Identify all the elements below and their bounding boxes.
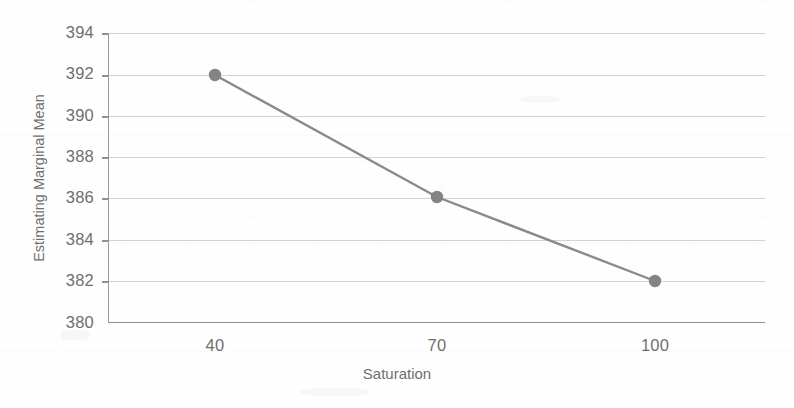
data-point-100[interactable]: [645, 271, 665, 291]
data-point-40[interactable]: [205, 65, 225, 85]
xtick-label-100: 100: [615, 336, 695, 355]
scan-smudge: [300, 388, 370, 396]
chart-figure: 394 392 390 388 386 384 382 380 40 70 10…: [0, 0, 794, 408]
data-point-70[interactable]: [427, 187, 447, 207]
xtick-label-40: 40: [175, 336, 255, 355]
ytick-label-380: 380: [34, 313, 94, 332]
x-axis-title: Saturation: [0, 365, 794, 382]
ytick-label-394: 394: [34, 23, 94, 42]
xtick-label-70: 70: [397, 336, 477, 355]
y-axis-title: Estimating Marginal Mean: [31, 63, 47, 293]
